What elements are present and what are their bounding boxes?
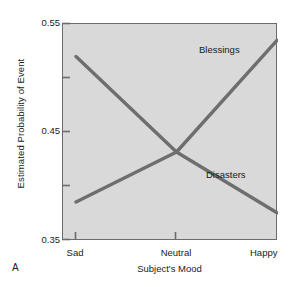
series-line-blessings <box>76 40 277 202</box>
series-label-disasters: Disasters <box>206 169 246 180</box>
plot-lines-svg <box>63 24 278 241</box>
y-axis-tick-label: 0.45 <box>26 126 60 136</box>
y-axis-tick-label: 0.35 <box>26 235 60 245</box>
plot-area <box>62 23 277 240</box>
x-axis-tick-label: Neutral <box>148 247 204 258</box>
x-axis-title: Subject's Mood <box>62 263 277 274</box>
y-axis-tick-label: 0.55 <box>26 18 60 28</box>
panel-label: A <box>12 262 19 273</box>
series-label-blessings: Blessings <box>199 44 240 55</box>
figure-panel-a: Estimated Probability of Event 0.55 0.45… <box>0 0 296 287</box>
x-axis-tick-label: Sad <box>50 247 100 258</box>
x-axis-tick-label: Happy <box>250 247 296 258</box>
y-axis-tick-labels: 0.55 0.45 0.35 <box>22 0 60 287</box>
series-line-disasters <box>76 57 277 213</box>
